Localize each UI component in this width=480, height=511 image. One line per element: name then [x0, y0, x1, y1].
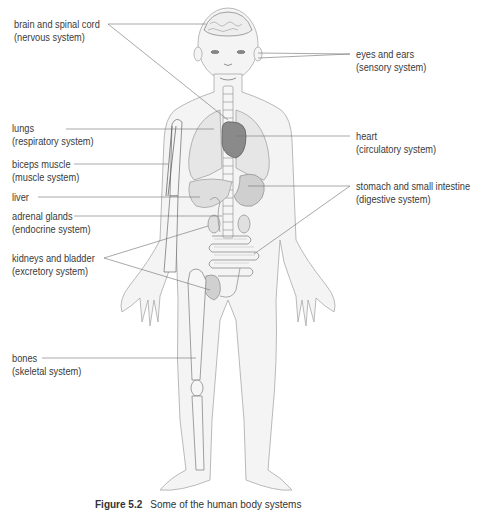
- label-lungs-line2: (respiratory system): [12, 135, 94, 148]
- spine: [223, 86, 233, 238]
- label-kidneys-and-bladder: kidneys and bladder (excretory system): [12, 252, 95, 278]
- label-stomach-line2: (digestive system): [356, 193, 470, 206]
- label-stomach-line1: stomach and small intestine: [356, 180, 470, 193]
- label-heart-line1: heart: [356, 130, 436, 143]
- label-biceps-line2: (muscle system): [12, 171, 79, 184]
- label-heart-line2: (circulatory system): [356, 143, 436, 156]
- label-brain-and-spinal-cord: brain and spinal cord (nervous system): [14, 18, 100, 44]
- label-lungs: lungs (respiratory system): [12, 122, 94, 148]
- heart-icon: [222, 122, 246, 158]
- label-liver-line1: liver: [12, 191, 29, 204]
- label-bones-line1: bones: [12, 352, 81, 365]
- label-biceps-muscle: biceps muscle (muscle system): [12, 158, 79, 184]
- label-eyes-line2: (sensory system): [356, 61, 426, 74]
- label-kidneys-line2: (excretory system): [12, 265, 95, 278]
- label-heart: heart (circulatory system): [356, 130, 436, 156]
- figure-number: Figure 5.2: [95, 499, 142, 510]
- label-liver: liver: [12, 191, 29, 204]
- label-lungs-line1: lungs: [12, 122, 94, 135]
- label-brain-line2: (nervous system): [14, 31, 100, 44]
- label-adrenal-glands: adrenal glands (endocrine system): [12, 210, 91, 236]
- label-stomach-and-small-intestine: stomach and small intestine (digestive s…: [356, 180, 470, 206]
- label-eyes-and-ears: eyes and ears (sensory system): [356, 48, 426, 74]
- label-adrenal-line2: (endocrine system): [12, 223, 91, 236]
- label-brain-line1: brain and spinal cord: [14, 18, 100, 31]
- label-eyes-line1: eyes and ears: [356, 48, 426, 61]
- figure-caption: Figure 5.2Some of the human body systems: [95, 499, 301, 510]
- label-kidneys-line1: kidneys and bladder: [12, 252, 95, 265]
- label-biceps-line1: biceps muscle: [12, 158, 79, 171]
- figure-caption-text: Some of the human body systems: [150, 499, 301, 510]
- label-bones: bones (skeletal system): [12, 352, 81, 378]
- label-bones-line2: (skeletal system): [12, 365, 81, 378]
- label-adrenal-line1: adrenal glands: [12, 210, 91, 223]
